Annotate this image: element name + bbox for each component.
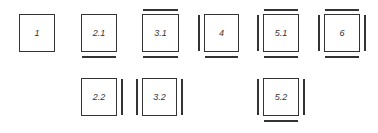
box-2-1: 2.1 [81,14,117,52]
top-bar-line [325,9,359,11]
top-bar-line [264,9,298,11]
box-label: 5.2 [275,92,288,102]
box-label: 2.1 [93,28,106,38]
box-3-2: 3.2 [142,78,177,116]
box-label: 1 [34,28,39,38]
box-1: 1 [19,14,55,52]
bottom-bar-line [82,56,116,58]
right-bar-line [364,15,366,51]
box-label: 3.1 [154,28,167,38]
box-5-1: 5.1 [263,14,299,52]
box-2-2: 2.2 [81,78,117,116]
box-label: 5.1 [275,28,288,38]
box-label: 6 [339,28,344,38]
left-bar-line [318,15,320,51]
box-4: 4 [204,14,239,52]
box-label: 4 [219,28,224,38]
box-5-2: 5.2 [263,78,299,116]
bottom-bar-line [264,56,298,58]
left-bar-line [257,79,259,115]
right-bar-line [181,79,183,115]
bottom-bar-line [143,56,178,58]
box-label: 3.2 [153,92,166,102]
left-bar-line [257,15,259,51]
left-bar-line [136,79,138,115]
top-bar-line [143,9,178,11]
box-6: 6 [324,14,360,52]
box-label: 2.2 [93,92,106,102]
left-bar-line [198,15,200,51]
box-3-1: 3.1 [142,14,179,52]
right-bar-line [121,79,123,115]
bottom-bar-line [325,56,359,58]
bottom-bar-line [264,120,298,122]
bottom-bar-line [205,56,238,58]
right-bar-line [303,79,305,115]
